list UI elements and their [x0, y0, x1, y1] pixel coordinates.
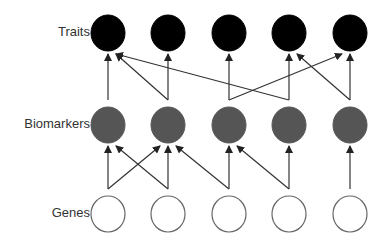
biomarker-node-5 — [333, 107, 367, 143]
trait-node-5 — [333, 15, 367, 51]
trait-node-1 — [91, 15, 125, 51]
gene-node-4 — [272, 196, 306, 232]
gene-node-2 — [151, 196, 185, 232]
trait-node-3 — [212, 15, 246, 51]
gene-node-5 — [333, 196, 367, 232]
trait-node-4 — [272, 15, 306, 51]
arrow-edge — [108, 146, 160, 189]
arrow-edge — [237, 146, 289, 189]
arrow-edge — [176, 146, 229, 189]
gene-node-1 — [91, 196, 125, 232]
network-diagram — [0, 0, 380, 245]
biomarker-node-3 — [212, 107, 246, 143]
trait-node-2 — [151, 15, 185, 51]
arrow-edge — [116, 146, 168, 189]
biomarker-node-2 — [151, 107, 185, 143]
biomarker-node-1 — [91, 107, 125, 143]
arrow-edge — [229, 54, 342, 100]
nodes — [91, 15, 367, 232]
gene-node-3 — [212, 196, 246, 232]
biomarker-node-4 — [272, 107, 306, 143]
